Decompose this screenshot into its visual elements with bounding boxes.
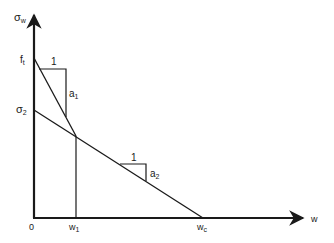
ft-label: ft — [20, 54, 25, 66]
diagram-canvas: σw w 0 ft σ2 w1 wc 1 a1 1 a2 — [0, 0, 334, 243]
y-axis-label: σw — [14, 11, 27, 24]
slope2-run-label: 1 — [131, 152, 137, 163]
w1-label: w1 — [68, 222, 80, 233]
origin-label: 0 — [29, 222, 34, 232]
slope1-run-label: 1 — [51, 56, 57, 67]
slope2-rise-label: a2 — [150, 168, 160, 180]
wc-label: wc — [196, 222, 208, 233]
second-softening-line — [34, 110, 203, 218]
slope1-rise-label: a1 — [69, 88, 79, 100]
x-axis-label: w — [310, 214, 318, 224]
bilinear-softening-diagram: σw w 0 ft σ2 w1 wc 1 a1 1 a2 — [0, 0, 334, 243]
sigma2-label: σ2 — [16, 103, 27, 116]
